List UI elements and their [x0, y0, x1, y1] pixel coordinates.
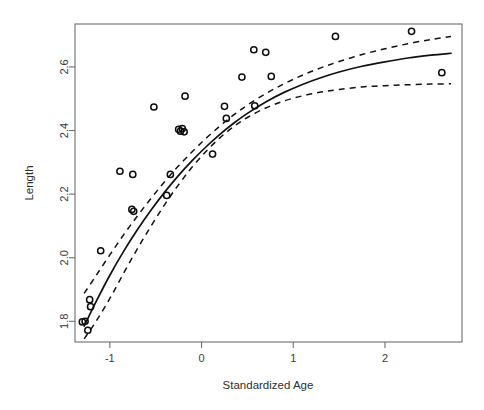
- data-point: [239, 74, 245, 80]
- data-point: [221, 103, 227, 109]
- data-point: [151, 104, 157, 110]
- upper-confidence-band: [84, 36, 451, 293]
- plot-frame: [75, 24, 462, 342]
- y-tick-label: 2.4: [58, 123, 70, 138]
- y-axis-tick-labels: 1.82.02.22.42.6: [58, 59, 70, 329]
- data-point: [263, 49, 269, 55]
- fitted-curve: [84, 53, 451, 326]
- y-axis-title: Length: [23, 165, 35, 200]
- x-tick-label: -1: [105, 352, 115, 364]
- data-point: [332, 33, 338, 39]
- data-points: [79, 28, 445, 333]
- figure-panel: 1.82.02.22.42.6 -1012 Standardized Age L…: [0, 0, 484, 410]
- y-tick-label: 2.6: [58, 59, 70, 74]
- x-tick-label: 0: [198, 352, 204, 364]
- data-point: [85, 327, 91, 333]
- x-tick-label: 2: [382, 352, 388, 364]
- scatter-plot: 1.82.02.22.42.6 -1012 Standardized Age L…: [0, 0, 484, 410]
- y-tick-label: 2.2: [58, 186, 70, 201]
- x-axis-tick-labels: -1012: [105, 352, 388, 364]
- y-tick-label: 2.0: [58, 250, 70, 265]
- data-point: [268, 73, 274, 79]
- x-tick-label: 1: [290, 352, 296, 364]
- data-point: [98, 248, 104, 254]
- data-point: [87, 297, 93, 303]
- data-point: [182, 93, 188, 99]
- data-point: [251, 47, 257, 53]
- data-point: [209, 151, 215, 157]
- lower-confidence-band: [84, 84, 451, 339]
- x-axis-ticks: [110, 342, 385, 348]
- data-point: [408, 28, 414, 34]
- data-point: [439, 70, 445, 76]
- x-axis-title: Standardized Age: [223, 379, 314, 391]
- data-point: [117, 168, 123, 174]
- y-tick-label: 1.8: [58, 314, 70, 329]
- data-point: [130, 171, 136, 177]
- data-point: [164, 192, 170, 198]
